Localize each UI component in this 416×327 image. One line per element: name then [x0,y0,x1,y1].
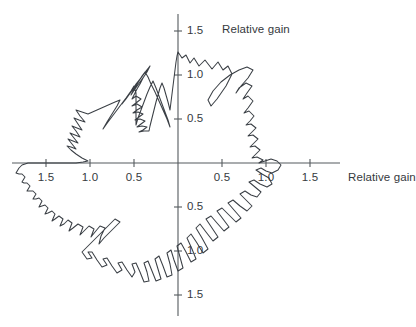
data-series-group [16,52,281,282]
x-tick-label: 1.0 [258,171,274,183]
y-tick-label: 0.5 [187,112,203,124]
y-axis-title: Relative gain [222,23,290,35]
x-tick-label: 1.0 [82,171,98,183]
x-axis-title: Relative gain [348,171,416,183]
y-tick-label: 1.0 [187,244,203,256]
y-tick-label: 1.5 [187,288,203,300]
y-tick-label: 1.5 [187,24,203,36]
x-tick-label: 0.5 [214,171,230,183]
x-tick-label: 0.5 [126,171,142,183]
relative-gain-pattern-curve [16,52,281,282]
x-tick-label: 1.5 [38,171,54,183]
y-tick-label: 0.5 [187,200,203,212]
x-tick-label: 1.5 [302,171,318,183]
y-tick-label: 1.0 [187,68,203,80]
polar-gain-pattern-figure: 1.51.00.50.51.01.51.51.00.50.51.01.5 Rel… [0,0,416,327]
plot-canvas [0,0,416,327]
